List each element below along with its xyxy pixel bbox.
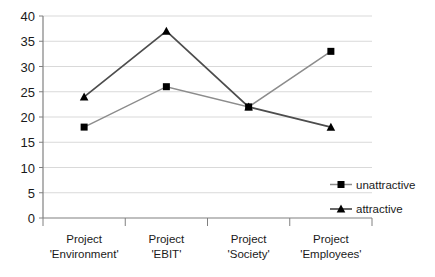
data-point-unattractive-3 [327,48,334,55]
x-axis-label-1-line1: Project [148,233,185,245]
x-axis-tick-labels: Project 'Environment' Project 'EBIT' Pro… [50,233,362,260]
y-axis-label-35: 35 [21,34,35,49]
y-axis-tick-labels: 40 35 30 25 20 15 10 5 0 [21,9,35,226]
y-axis-label-15: 15 [21,135,35,150]
x-axis-label-2-line2: 'Society' [228,248,270,260]
y-axis-label-25: 25 [21,85,35,100]
y-axis-label-30: 30 [21,60,35,75]
line-chart: 40 35 30 25 20 15 10 5 0 [0,0,435,277]
y-axis-label-10: 10 [21,161,35,176]
legend-label-unattractive: unattractive [356,179,415,191]
x-axis-label-1-line2: 'EBIT' [151,248,181,260]
x-axis-label-3-line1: Project [313,233,350,245]
y-axis-label-20: 20 [21,110,35,125]
y-axis-label-0: 0 [28,211,35,226]
chart-canvas: 40 35 30 25 20 15 10 5 0 [0,0,435,277]
x-axis-label-2-line1: Project [231,233,268,245]
legend-marker-square-icon [338,181,345,188]
data-point-unattractive-1 [163,83,170,90]
data-point-unattractive-0 [81,124,88,131]
x-axis-label-3-line2: 'Employees' [300,248,361,260]
y-axis-label-40: 40 [21,9,35,24]
legend-label-attractive: attractive [356,203,403,215]
x-axis-label-0-line2: 'Environment' [50,248,119,260]
x-axis-ticks [43,218,372,226]
y-axis-label-5: 5 [28,186,35,201]
x-axis-label-0-line1: Project [66,233,103,245]
